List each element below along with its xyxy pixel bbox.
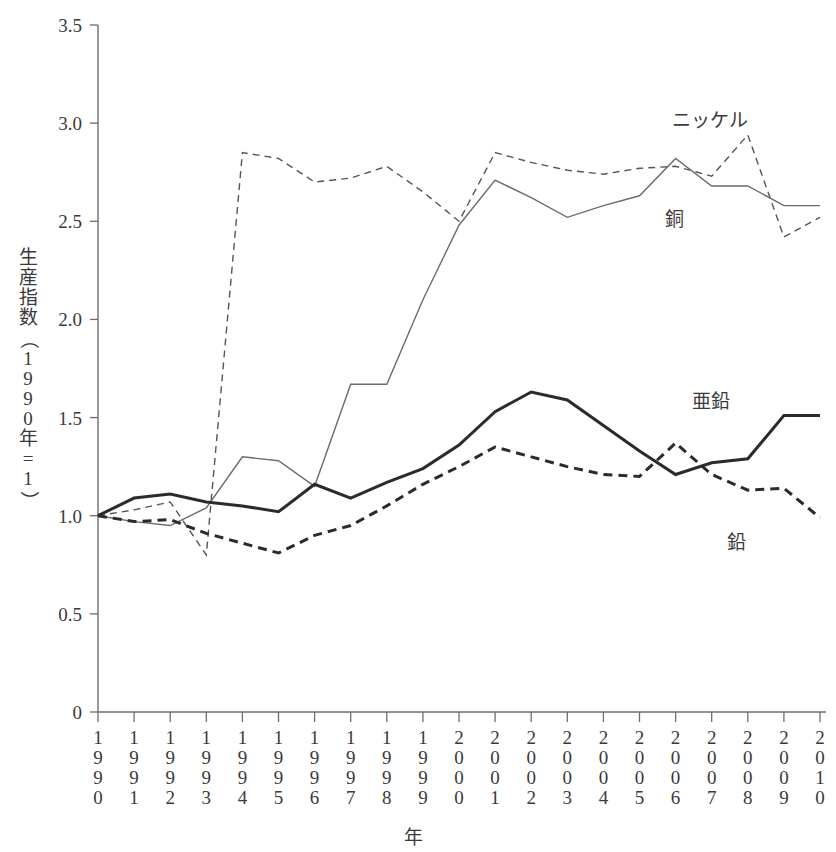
x-tick-label: 2000: [448, 728, 470, 808]
x-tick-label-digit: 0: [556, 768, 578, 788]
y-axis-title-char: 9: [8, 369, 48, 389]
y-axis-title-char: ）: [18, 480, 38, 520]
x-tick-label: 2008: [737, 728, 759, 808]
x-tick-label-digit: 1: [412, 728, 434, 748]
x-tick-label-digit: 0: [701, 768, 723, 788]
x-tick-label-digit: 6: [665, 788, 687, 808]
x-tick-label: 1992: [159, 728, 181, 808]
x-tick-label-digit: 0: [665, 748, 687, 768]
x-tick-label: 1994: [231, 728, 253, 808]
y-axis-title-char: 年: [8, 429, 48, 449]
x-tick-label-digit: 0: [448, 748, 470, 768]
y-axis-ticks: 00.51.01.52.02.53.03.5: [58, 15, 98, 723]
x-tick-label-digit: 1: [268, 728, 290, 748]
x-tick-label: 2007: [701, 728, 723, 808]
x-tick-label-digit: 1: [159, 728, 181, 748]
x-tick-label-digit: 9: [304, 748, 326, 768]
x-tick-label-digit: 9: [231, 768, 253, 788]
x-tick-label-digit: 0: [520, 748, 542, 768]
y-tick-label: 3.0: [58, 113, 82, 134]
x-tick-label: 2004: [592, 728, 614, 808]
x-tick-label-digit: 6: [304, 788, 326, 808]
x-tick-label-digit: 1: [376, 728, 398, 748]
x-tick-label-digit: 1: [87, 728, 109, 748]
x-tick-label-digit: 1: [123, 788, 145, 808]
x-tick-label: 2005: [629, 728, 651, 808]
x-tick-label-digit: 3: [556, 788, 578, 808]
y-axis-title-char: （: [18, 319, 38, 359]
x-tick-label-digit: 0: [556, 748, 578, 768]
x-tick-label-digit: 2: [556, 728, 578, 748]
x-tick-label-digit: 2: [737, 728, 759, 748]
x-tick-label-digit: 2: [484, 728, 506, 748]
series-label-0: ニッケル: [672, 105, 748, 132]
x-tick-label-digit: 0: [773, 748, 795, 768]
x-tick-label: 2010: [809, 728, 831, 808]
series-line-0: [98, 135, 820, 555]
x-tick-label: 2006: [665, 728, 687, 808]
x-tick-label-digit: 9: [773, 788, 795, 808]
x-tick-label-digit: 9: [87, 748, 109, 768]
x-tick-label-digit: 3: [195, 788, 217, 808]
series-line-1: [98, 158, 820, 525]
x-tick-label-digit: 5: [268, 788, 290, 808]
y-tick-label: 3.5: [58, 15, 82, 36]
x-tick-label-digit: 9: [340, 748, 362, 768]
x-tick-label: 1991: [123, 728, 145, 808]
y-axis-title-char: 指: [8, 288, 48, 308]
x-tick-label-digit: 7: [701, 788, 723, 808]
x-tick-label: 1993: [195, 728, 217, 808]
x-tick-label-digit: 9: [87, 768, 109, 788]
x-tick-label-digit: 2: [159, 788, 181, 808]
x-tick-label-digit: 0: [448, 788, 470, 808]
x-tick-label-digit: 0: [629, 748, 651, 768]
y-axis-title-char: 生: [8, 248, 48, 268]
x-tick-label: 1998: [376, 728, 398, 808]
y-axis-title-char: 0: [8, 409, 48, 429]
x-tick-label-digit: 2: [665, 728, 687, 748]
x-tick-label-digit: 8: [376, 788, 398, 808]
x-tick-label: 1995: [268, 728, 290, 808]
x-tick-label-digit: 1: [231, 728, 253, 748]
x-tick-label-digit: 9: [376, 748, 398, 768]
x-tick-label: 1999: [412, 728, 434, 808]
x-tick-label-digit: 0: [809, 788, 831, 808]
y-tick-label: 2.5: [58, 211, 82, 232]
x-tick-label-digit: 1: [123, 728, 145, 748]
x-tick-label-digit: 7: [340, 788, 362, 808]
x-tick-label: 2002: [520, 728, 542, 808]
x-tick-label-digit: 2: [773, 728, 795, 748]
x-tick-label-digit: 9: [123, 768, 145, 788]
series-label-2: 亜鉛: [692, 386, 730, 413]
y-axis-title-char: =: [8, 449, 48, 469]
x-tick-label-digit: 2: [701, 728, 723, 748]
x-tick-label-digit: 9: [412, 788, 434, 808]
x-tick-label-digit: 1: [195, 728, 217, 748]
y-tick-label: 0.5: [58, 604, 82, 625]
series-label-1: 銅: [665, 204, 684, 231]
x-tick-label-digit: 9: [123, 748, 145, 768]
series-label-3: 鉛: [727, 527, 746, 554]
x-tick-label-digit: 0: [629, 768, 651, 788]
x-tick-label-digit: 0: [520, 768, 542, 788]
x-tick-label-digit: 2: [520, 788, 542, 808]
x-tick-label: 1990: [87, 728, 109, 808]
x-axis-title: 年: [404, 822, 423, 849]
x-tick-label-digit: 9: [268, 768, 290, 788]
x-tick-label-digit: 5: [629, 788, 651, 808]
x-tick-label-digit: 1: [340, 728, 362, 748]
x-tick-label-digit: 2: [448, 728, 470, 748]
x-tick-label-digit: 4: [231, 788, 253, 808]
x-tick-label-digit: 0: [737, 748, 759, 768]
x-tick-label-digit: 0: [809, 748, 831, 768]
y-tick-label: 0: [73, 702, 83, 723]
y-tick-label: 2.0: [58, 309, 82, 330]
series-line-3: [98, 443, 820, 553]
series-group: [98, 135, 820, 555]
x-tick-label-digit: 1: [304, 728, 326, 748]
x-tick-label-digit: 9: [159, 748, 181, 768]
x-tick-label-digit: 0: [592, 768, 614, 788]
x-tick-label-digit: 0: [484, 748, 506, 768]
y-tick-label: 1.5: [58, 408, 82, 429]
x-tick-label-digit: 2: [592, 728, 614, 748]
